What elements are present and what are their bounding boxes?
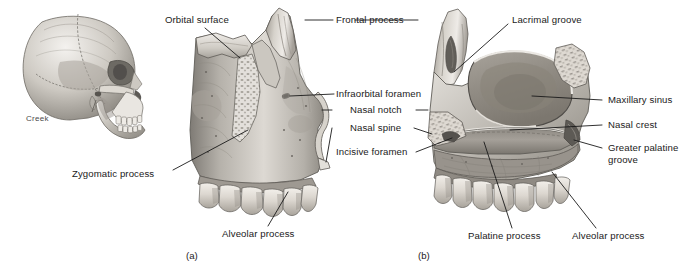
- maxilla-medial-view: [428, 9, 590, 212]
- label-zygomatic-process: Zygomatic process: [72, 168, 154, 180]
- label-alveolar-process-a: Alveolar process: [222, 228, 295, 240]
- label-palatine-process: Palatine process: [468, 230, 541, 242]
- label-greater-palatine-groove: Greater palatine groove: [608, 142, 688, 165]
- label-incisive-foramen: Incisive foramen: [336, 146, 407, 158]
- label-lacrimal-groove: Lacrimal groove: [512, 14, 582, 26]
- label-frontal-process: Frontal process: [336, 14, 404, 26]
- artist-signature: Creek: [26, 114, 49, 123]
- label-alveolar-process-b: Alveolar process: [572, 230, 645, 242]
- label-nasal-crest: Nasal crest: [608, 119, 657, 131]
- anatomy-figure: Orbital surface Frontal process Infraorb…: [0, 0, 698, 273]
- label-nasal-spine: Nasal spine: [350, 122, 401, 134]
- label-infraorbital-foramen: Infraorbital foramen: [336, 88, 421, 100]
- caption-panel-a: (a): [186, 250, 198, 261]
- label-nasal-notch: Nasal notch: [350, 104, 402, 116]
- maxilla-lateral-view: [190, 8, 330, 217]
- caption-panel-b: (b): [418, 250, 430, 261]
- label-orbital-surface: Orbital surface: [165, 14, 229, 26]
- leader-nasal-spine: [326, 128, 332, 162]
- label-maxillary-sinus: Maxillary sinus: [608, 94, 672, 106]
